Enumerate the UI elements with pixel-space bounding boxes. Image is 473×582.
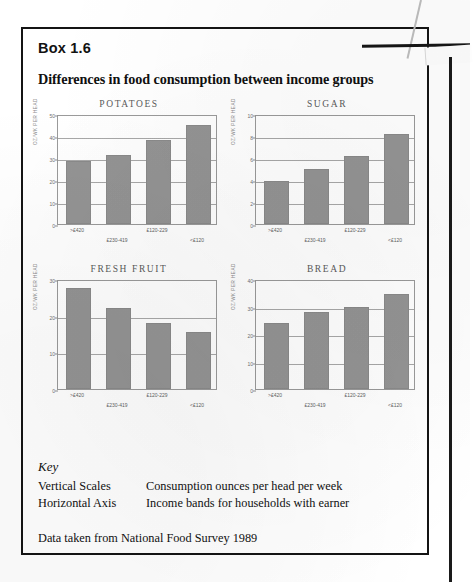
plot-area: 0246810 bbox=[255, 115, 415, 225]
bar bbox=[304, 312, 329, 389]
bars-group bbox=[256, 116, 414, 224]
y-tick-label: 10 bbox=[247, 113, 253, 119]
y-tick-label: 30 bbox=[49, 278, 55, 284]
y-tick-label: 30 bbox=[49, 157, 55, 163]
x-tick-label: £120-229 bbox=[146, 392, 167, 398]
y-tick-label: 20 bbox=[49, 315, 55, 321]
bars-group bbox=[58, 281, 216, 389]
y-tick-label: 20 bbox=[49, 179, 55, 185]
key-description: Consumption ounces per head per week bbox=[146, 478, 418, 495]
bar bbox=[146, 323, 171, 389]
chart-title: FRESH FRUIT bbox=[31, 264, 227, 274]
bar bbox=[66, 161, 91, 224]
bar bbox=[264, 181, 289, 224]
x-tick-label: >£420 bbox=[70, 227, 84, 233]
chart-potatoes: POTATOESOZ/WK PER HEAD01020304050>£420£2… bbox=[31, 99, 227, 271]
x-tick-label: £230-419 bbox=[304, 402, 325, 408]
key-term: Horizontal Axis bbox=[38, 495, 146, 512]
y-axis-label: OZ/WK PER HEAD bbox=[231, 98, 236, 145]
bar bbox=[344, 307, 369, 390]
bars-group bbox=[256, 281, 414, 389]
y-tick-label: 4 bbox=[250, 179, 253, 185]
y-tick-label: 0 bbox=[52, 388, 55, 394]
x-tick-label: <£120 bbox=[190, 402, 204, 408]
bar bbox=[146, 140, 171, 224]
y-tick-label: 40 bbox=[49, 135, 55, 141]
y-tick-label: 0 bbox=[250, 388, 253, 394]
y-tick-label: 2 bbox=[250, 201, 253, 207]
y-tick-label: 40 bbox=[247, 278, 253, 284]
bar bbox=[344, 156, 369, 224]
x-tick-label: £120-229 bbox=[344, 227, 365, 233]
bar bbox=[186, 332, 211, 389]
x-axis-labels: >£420£230-419£120-229<£120 bbox=[57, 392, 217, 418]
bar bbox=[186, 125, 211, 224]
box-number-label: Box 1.6 bbox=[38, 40, 91, 56]
plot-area: 0102030 bbox=[57, 280, 217, 390]
y-tick-label: 10 bbox=[247, 361, 253, 367]
key-row: Vertical ScalesConsumption ounces per he… bbox=[38, 478, 418, 495]
y-tick-label: 10 bbox=[49, 201, 55, 207]
bar bbox=[106, 308, 131, 389]
x-axis-labels: >£420£230-419£120-229<£120 bbox=[57, 227, 217, 253]
plot-area: 010203040 bbox=[255, 280, 415, 390]
y-tick-label: 30 bbox=[247, 306, 253, 312]
y-axis-label: OZ/WK PER HEAD bbox=[33, 263, 38, 310]
bars-group bbox=[58, 116, 216, 224]
x-tick-label: £120-229 bbox=[146, 227, 167, 233]
x-tick-label: >£420 bbox=[268, 392, 282, 398]
y-tick-label: 20 bbox=[247, 333, 253, 339]
chart-title: SUGAR bbox=[229, 99, 425, 109]
x-tick-label: £120-229 bbox=[344, 392, 365, 398]
bar bbox=[304, 169, 329, 224]
y-tick-label: 8 bbox=[250, 135, 253, 141]
key-term: Vertical Scales bbox=[38, 478, 146, 495]
chart-title: POTATOES bbox=[31, 99, 227, 109]
x-tick-label: >£420 bbox=[70, 392, 84, 398]
x-axis-labels: >£420£230-419£120-229<£120 bbox=[255, 392, 415, 418]
source-note: Data taken from National Food Survey 198… bbox=[38, 531, 257, 546]
y-axis-label: OZ/WK PER HEAD bbox=[33, 98, 38, 145]
x-tick-label: £230-419 bbox=[304, 237, 325, 243]
y-tick-label: 6 bbox=[250, 157, 253, 163]
page-edge-right-rule bbox=[449, 57, 452, 582]
box-container: Box 1.6 Differences in food consumption … bbox=[21, 27, 429, 555]
key-heading: Key bbox=[38, 459, 418, 475]
chart-bread: BREADOZ/WK PER HEAD010203040>£420£230-41… bbox=[229, 264, 425, 436]
plot-area: 01020304050 bbox=[57, 115, 217, 225]
bar bbox=[264, 323, 289, 389]
box-title: Differences in food consumption between … bbox=[38, 71, 418, 88]
x-tick-label: <£120 bbox=[190, 237, 204, 243]
bar bbox=[384, 134, 409, 224]
x-tick-label: >£420 bbox=[268, 227, 282, 233]
y-tick-label: 10 bbox=[49, 351, 55, 357]
key-section: Key Vertical ScalesConsumption ounces pe… bbox=[38, 459, 418, 512]
x-tick-label: £230-419 bbox=[106, 237, 127, 243]
y-axis-label: OZ/WK PER HEAD bbox=[231, 263, 236, 310]
charts-grid: POTATOESOZ/WK PER HEAD01020304050>£420£2… bbox=[23, 99, 427, 454]
bar bbox=[106, 155, 131, 224]
x-tick-label: <£120 bbox=[388, 237, 402, 243]
x-tick-label: £230-419 bbox=[106, 402, 127, 408]
y-tick-label: 50 bbox=[49, 113, 55, 119]
chart-title: BREAD bbox=[229, 264, 425, 274]
chart-fresh-fruit: FRESH FRUITOZ/WK PER HEAD0102030>£420£23… bbox=[31, 264, 227, 436]
page-corner-fold bbox=[424, 44, 472, 65]
bar bbox=[66, 288, 91, 389]
key-rows: Vertical ScalesConsumption ounces per he… bbox=[38, 478, 418, 512]
key-row: Horizontal AxisIncome bands for househol… bbox=[38, 495, 418, 512]
bar bbox=[384, 294, 409, 389]
key-description: Income bands for households with earner bbox=[146, 495, 418, 512]
y-tick-label: 0 bbox=[52, 223, 55, 229]
chart-sugar: SUGAROZ/WK PER HEAD0246810>£420£230-419£… bbox=[229, 99, 425, 271]
x-tick-label: <£120 bbox=[388, 402, 402, 408]
y-tick-label: 0 bbox=[250, 223, 253, 229]
x-axis-labels: >£420£230-419£120-229<£120 bbox=[255, 227, 415, 253]
